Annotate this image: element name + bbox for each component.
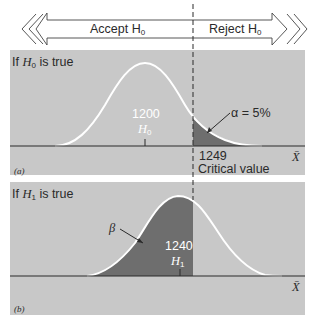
panel-b: If H1 is true 1240 H1 β X̄ (b) bbox=[10, 182, 305, 315]
alpha-label: α = 5% bbox=[231, 106, 271, 120]
panel-a: If H0 is true 1200 H0 α = 5% 1249 Critic… bbox=[10, 50, 305, 176]
h1-mean-value: 1240 bbox=[165, 239, 193, 253]
h0-mean-value: 1200 bbox=[132, 107, 160, 121]
critical-value: 1249 bbox=[199, 149, 227, 163]
reject-label: Reject H0 bbox=[209, 22, 262, 37]
critical-value-label: Critical value bbox=[198, 162, 270, 176]
panel-b-tag: (b) bbox=[14, 304, 25, 314]
panel-a-tag: (a) bbox=[14, 166, 25, 176]
x-bar-axis-label: X̄ bbox=[291, 280, 301, 294]
beta-label: β bbox=[108, 221, 116, 235]
accept-label: Accept H0 bbox=[90, 22, 146, 37]
panel-a-condition: If H0 is true bbox=[12, 55, 73, 70]
hypothesis-test-figure: Accept H0 Reject H0 If H0 is true 1200 H… bbox=[0, 0, 317, 322]
x-bar-axis-label: X̄ bbox=[291, 150, 301, 164]
panel-b-condition: If H1 is true bbox=[12, 187, 73, 202]
decision-bar: Accept H0 Reject H0 bbox=[22, 13, 307, 45]
